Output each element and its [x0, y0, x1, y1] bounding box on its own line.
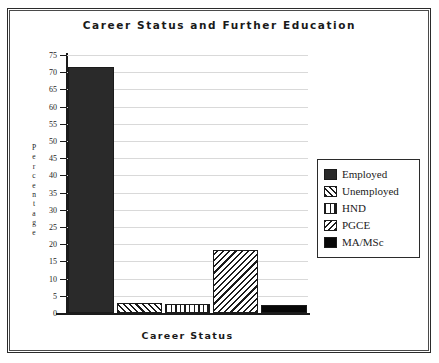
legend-swatch-icon [324, 186, 337, 197]
legend-item[interactable]: PGCE [324, 217, 414, 234]
y-axis-title-letter: P [28, 143, 40, 152]
bar-group [67, 55, 308, 313]
y-axis-title-letter: a [28, 209, 40, 218]
legend-item[interactable]: HND [324, 200, 414, 217]
legend-item[interactable]: Employed [324, 166, 414, 183]
legend-item-label: Employed [342, 169, 387, 180]
y-axis-title-letter: n [28, 190, 40, 199]
legend-item-label: PGCE [342, 220, 370, 231]
y-axis-title-letter: g [28, 218, 40, 227]
legend-swatch-icon [324, 169, 337, 180]
legend-swatch-icon [324, 220, 337, 231]
y-axis-title-letter: c [28, 171, 40, 180]
legend-item-label: HND [342, 203, 366, 214]
y-axis-title-letter: e [28, 152, 40, 161]
x-axis-title: Career Status [67, 330, 308, 341]
legend-swatch-icon [324, 237, 337, 248]
y-axis-title-letter: r [28, 162, 40, 171]
chart-title: Career Status and Further Education [0, 19, 439, 31]
legend-swatch-icon [324, 203, 337, 214]
bar-pgce [213, 250, 258, 313]
legend-item-label: MA/MSc [342, 237, 384, 248]
legend-item-label: Unemployed [342, 186, 399, 197]
y-axis-title-letter: e [28, 228, 40, 237]
y-axis-title-letter: t [28, 199, 40, 208]
bar-ma-msc [261, 305, 306, 313]
x-axis-line [56, 313, 310, 315]
chart-screenshot: Career Status and Further Education Perc… [0, 0, 439, 363]
chart-legend: EmployedUnemployedHNDPGCEMA/MSc [317, 159, 420, 258]
legend-item[interactable]: Unemployed [324, 183, 414, 200]
bar-employed [68, 67, 113, 313]
y-axis-title-letter: e [28, 181, 40, 190]
bar-unemployed [117, 303, 162, 313]
bar-hnd [165, 304, 210, 313]
plot-area: 051015202530354045505560657075 [67, 55, 308, 313]
legend-item[interactable]: MA/MSc [324, 234, 414, 251]
y-axis-title: Percentage [28, 143, 40, 237]
